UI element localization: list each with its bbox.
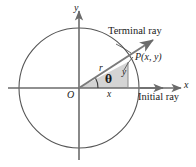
terminal-ray-label: Terminal ray xyxy=(108,26,162,37)
y-axis-label: y xyxy=(74,3,78,13)
terminal-ray-leader xyxy=(116,44,131,53)
horizontal-leg-label: x xyxy=(107,90,111,100)
diagram-canvas xyxy=(0,0,196,167)
initial-ray-label: Initial ray xyxy=(138,92,179,103)
point-p-label: P(x, y) xyxy=(135,52,162,62)
vertical-leg-label: y xyxy=(122,68,126,78)
radius-label: r xyxy=(99,64,103,74)
x-axis-label: x xyxy=(184,80,188,90)
origin-label: O xyxy=(67,90,74,100)
trig-circle-diagram: y x O Terminal ray Initial ray P(x, y) r… xyxy=(0,0,196,167)
angle-theta-label: θ xyxy=(105,74,112,85)
